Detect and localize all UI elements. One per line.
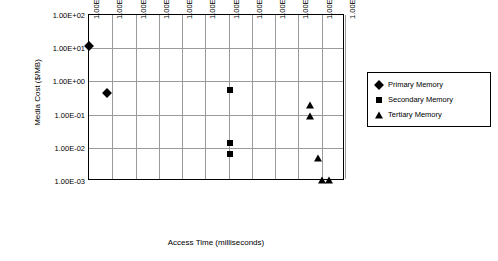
marker-triangle — [314, 154, 322, 161]
x-tick-label: 1.00E+04 — [301, 0, 310, 19]
x-tick-label: 1.00E+02 — [255, 0, 264, 19]
x-gridline — [112, 15, 113, 179]
legend: Primary MemorySecondary MemoryTertiary M… — [367, 72, 491, 127]
y-gridline — [89, 48, 343, 49]
marker-square — [227, 140, 233, 146]
x-tick-label: 1.00E-01 — [185, 0, 194, 19]
y-gridline — [89, 115, 343, 116]
legend-item: Primary Memory — [370, 77, 486, 92]
y-tick-label: 1.00E+01 — [37, 44, 89, 53]
x-tick-label: 1.00E+00 — [208, 0, 217, 19]
marker-triangle — [325, 176, 333, 183]
marker-square — [376, 97, 382, 103]
chart-figure: Media Cost ($/MB) 1.00E-031.00E-021.00E-… — [0, 0, 498, 261]
x-tick-label: 1.00E-03 — [139, 0, 148, 19]
x-tick-label: 1.00E-04 — [115, 0, 124, 19]
y-tick-label: 1.00E+00 — [37, 77, 89, 86]
x-gridline — [159, 15, 160, 179]
x-gridline — [252, 15, 253, 179]
x-tick-label: 1.00E+05 — [325, 0, 334, 19]
x-gridline — [205, 15, 206, 179]
marker-triangle — [306, 113, 314, 120]
marker-diamond — [374, 80, 384, 90]
legend-label: Primary Memory — [388, 80, 443, 89]
y-tick-label: 1.00E-01 — [37, 110, 89, 119]
y-gridline — [89, 148, 343, 149]
legend-item: Secondary Memory — [370, 92, 486, 107]
x-axis-title: Access Time (milliseconds) — [88, 238, 344, 247]
x-tick-label: 1.00E-05 — [92, 0, 101, 19]
x-gridline — [182, 15, 183, 179]
legend-label: Secondary Memory — [388, 95, 453, 104]
marker-triangle — [306, 101, 314, 108]
x-tick-label: 1.00E-02 — [162, 0, 171, 19]
plot-area: 1.00E-031.00E-021.00E-011.00E+001.00E+01… — [88, 14, 344, 180]
legend-label: Tertiary Memory — [388, 110, 442, 119]
y-gridline — [89, 81, 343, 82]
marker-diamond — [102, 88, 112, 98]
marker-triangle — [375, 111, 383, 118]
x-gridline — [136, 15, 137, 179]
y-tick-label: 1.00E-03 — [37, 177, 89, 186]
legend-item: Tertiary Memory — [370, 107, 486, 122]
legend-marker-square — [370, 94, 388, 106]
x-gridline — [275, 15, 276, 179]
x-gridline — [345, 15, 346, 179]
marker-square — [227, 151, 233, 157]
x-gridline — [298, 15, 299, 179]
y-tick-label: 1.00E+02 — [37, 11, 89, 20]
legend-marker-diamond — [370, 79, 388, 91]
legend-marker-triangle — [370, 109, 388, 121]
x-tick-label: 1.00E+06 — [348, 0, 357, 19]
x-tick-label: 1.00E+03 — [278, 0, 287, 19]
y-tick-label: 1.00E-02 — [37, 143, 89, 152]
x-tick-label: 1.00E+01 — [232, 0, 241, 19]
marker-square — [227, 87, 233, 93]
